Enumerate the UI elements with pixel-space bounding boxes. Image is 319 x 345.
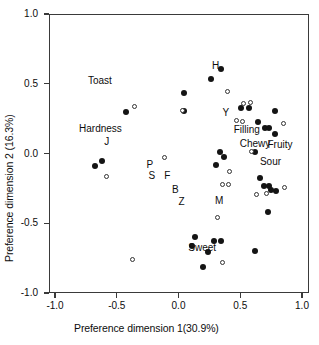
- data-point-open: [227, 169, 232, 174]
- data-point-filled: [221, 154, 227, 160]
- x-tick-mark: [240, 293, 241, 298]
- point-annotation-p: P: [147, 158, 154, 169]
- x-tick-label: -1.0: [38, 300, 72, 311]
- point-annotation-h: H: [212, 59, 219, 70]
- x-tick-mark: [301, 293, 302, 298]
- point-annotation-chewy: Chewy: [240, 138, 271, 149]
- y-tick-label: 1.0: [6, 8, 38, 19]
- data-point-open: [264, 191, 269, 196]
- x-tick-label: -0.5: [100, 300, 134, 311]
- data-point-filled: [266, 125, 272, 131]
- plot-frame: [49, 14, 309, 293]
- y-tick-label: -0.5: [6, 217, 38, 228]
- y-tick-mark: [44, 83, 49, 84]
- data-point-open: [226, 182, 231, 187]
- data-point-open: [220, 182, 225, 187]
- data-point-filled: [246, 105, 252, 111]
- point-annotation-z: Z: [179, 195, 185, 206]
- data-point-filled: [265, 209, 271, 215]
- point-annotation-j: J: [104, 135, 109, 146]
- y-axis-title: Preference dimension 2 (16.3%): [3, 114, 15, 262]
- data-point-filled: [213, 162, 219, 168]
- data-point-filled: [272, 108, 278, 114]
- point-annotation-toast: Toast: [88, 74, 112, 85]
- y-tick-mark: [44, 292, 49, 293]
- y-tick-label: 0.5: [6, 78, 38, 89]
- data-point-filled: [181, 90, 187, 96]
- point-annotation-y: Y: [223, 106, 230, 117]
- point-annotation-hardness: Hardness: [79, 123, 122, 134]
- point-annotation-fruity: Fruity: [268, 138, 293, 149]
- x-tick-label: 0.0: [162, 300, 196, 311]
- point-annotation-m: M: [215, 194, 223, 205]
- x-tick-mark: [54, 293, 55, 298]
- data-point-filled: [218, 238, 224, 244]
- point-annotation-sweet: Sweet: [188, 241, 216, 252]
- x-tick-label: 1.0: [285, 300, 319, 311]
- data-point-open: [104, 174, 109, 179]
- point-annotation-s: S: [149, 170, 156, 181]
- x-tick-mark: [178, 293, 179, 298]
- x-axis-title: Preference dimension 1(30.9%): [74, 322, 219, 334]
- data-point-filled: [123, 109, 129, 115]
- y-tick-mark: [44, 13, 49, 14]
- y-tick-label: -1.0: [6, 287, 38, 298]
- data-point-filled: [192, 234, 198, 240]
- y-tick-mark: [44, 223, 49, 224]
- y-tick-label: 0.0: [6, 148, 38, 159]
- scatter-plot-figure: Preference dimension 2 (16.3%) Preferenc…: [0, 0, 319, 345]
- point-annotation-sour: Sour: [260, 155, 281, 166]
- x-tick-label: 0.5: [223, 300, 257, 311]
- x-tick-mark: [116, 293, 117, 298]
- y-tick-mark: [44, 153, 49, 154]
- point-annotation-b: B: [172, 183, 179, 194]
- data-point-open: [215, 215, 220, 220]
- data-point-filled: [272, 131, 278, 137]
- point-annotation-f: F: [164, 170, 170, 181]
- point-annotation-filling: Filling: [234, 124, 260, 135]
